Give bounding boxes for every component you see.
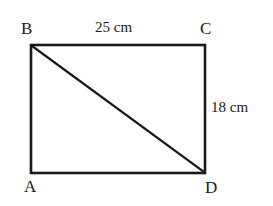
geometry-figure: B C A D 25 cm 18 cm: [0, 0, 273, 206]
diagonal-line-bd: [32, 46, 204, 172]
vertex-label-b: B: [21, 20, 32, 37]
vertex-label-d: D: [205, 179, 217, 196]
vertex-label-a: A: [24, 178, 36, 195]
vertex-label-c: C: [200, 20, 211, 37]
dimension-label-top: 25 cm: [95, 20, 132, 35]
dimension-label-right: 18 cm: [211, 100, 248, 115]
